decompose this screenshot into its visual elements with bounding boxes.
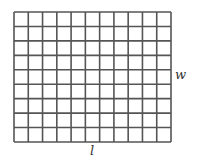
- length-label: l: [90, 144, 94, 157]
- grid-rectangle: [13, 11, 172, 143]
- width-label: w: [175, 68, 186, 81]
